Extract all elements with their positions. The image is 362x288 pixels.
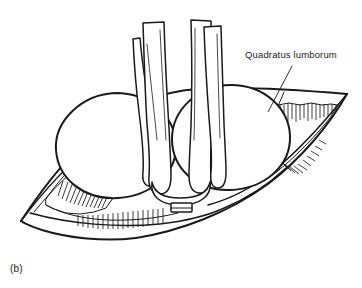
figure-panel-b: Quadratus lumborum (b) (0, 0, 362, 288)
panel-label-b: (b) (10, 264, 23, 274)
anatomy-illustration (0, 0, 362, 288)
quadratus-lumborum-label: Quadratus lumborum (245, 50, 337, 60)
